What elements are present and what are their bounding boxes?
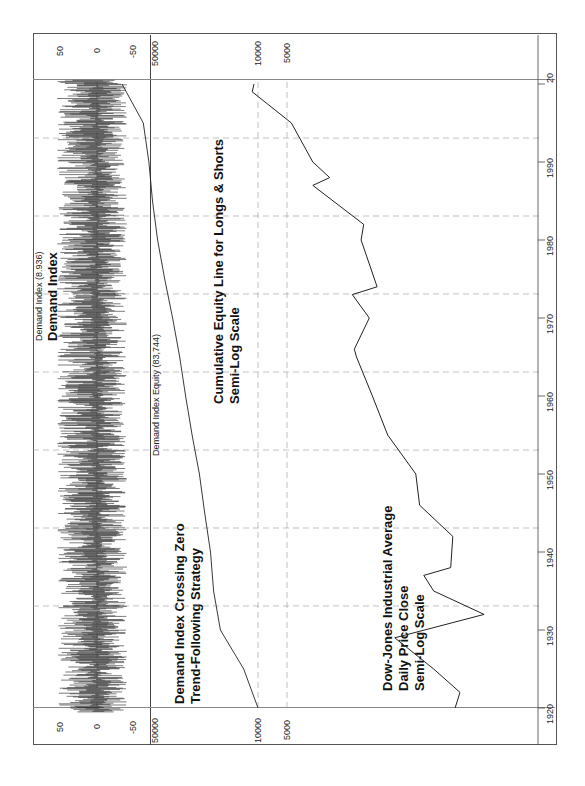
equity-line [122, 84, 258, 708]
demand-index-series [57, 80, 127, 712]
rotated-chart-canvas: 50 0 -50 50000 10000 5000 50 0 -50 50000… [0, 0, 585, 786]
chart-plots [0, 0, 585, 786]
x-ticks [538, 35, 545, 745]
